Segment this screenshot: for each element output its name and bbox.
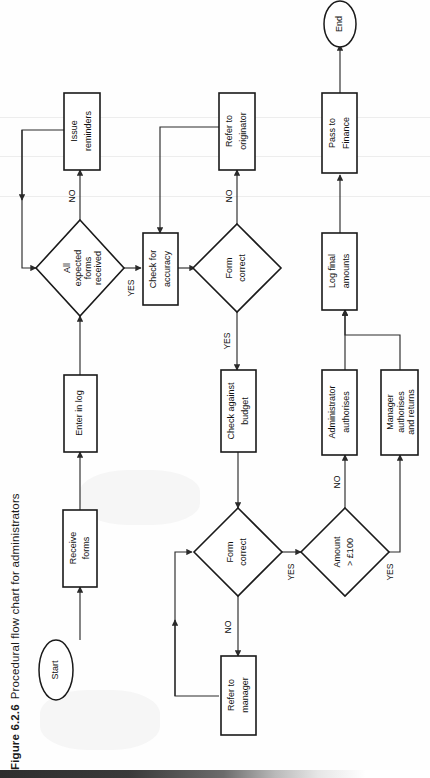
node-refer-to-originator[interactable]: Refer to originator: [219, 93, 255, 170]
node-enter-in-log[interactable]: Enter in log: [64, 375, 97, 452]
svg-text:Receive: Receive: [68, 532, 78, 565]
svg-text:End: End: [334, 16, 344, 32]
node-form-correct-1[interactable]: Form correct: [193, 224, 281, 312]
edge-mgrauth-to-logfinal: [345, 310, 400, 370]
figure-page: Start Receive forms Enter in log All exp…: [0, 0, 430, 778]
page-edge-bar: [0, 770, 430, 778]
figure-number: Figure 6.2.6: [9, 704, 21, 770]
node-form-correct-2[interactable]: Form correct: [194, 508, 282, 596]
edge-label-yes-amount: YES: [385, 563, 395, 580]
svg-text:Manager: Manager: [385, 394, 395, 430]
node-receive-forms[interactable]: Receive forms: [63, 510, 97, 587]
svg-text:Amount: Amount: [332, 536, 342, 568]
svg-text:Finance: Finance: [341, 117, 351, 149]
svg-text:authorises: authorises: [341, 391, 351, 433]
edge-label-no-allforms: NO: [67, 189, 77, 202]
svg-text:and returns: and returns: [406, 389, 416, 435]
svg-text:Refer to: Refer to: [224, 115, 234, 147]
svg-text:budget: budget: [240, 397, 250, 425]
edge-referorig-loop-to-checkacc: [160, 127, 219, 233]
svg-text:Issue: Issue: [69, 120, 79, 142]
node-all-forms-received[interactable]: All expected forms received: [36, 220, 124, 316]
svg-text:Administrator: Administrator: [327, 385, 337, 438]
figure-caption: Figure 6.2.6 Procedural flow chart for a…: [0, 0, 30, 778]
svg-text:correct: correct: [237, 254, 247, 282]
edge-amount-yes-to-mgrauth: [389, 455, 400, 552]
svg-text:received: received: [93, 251, 103, 285]
node-pass-to-finance[interactable]: Pass to Finance: [322, 93, 357, 173]
node-refer-to-manager[interactable]: Refer to manager: [221, 656, 256, 735]
svg-text:originator: originator: [238, 112, 248, 150]
figure-caption-text: Procedural flow chart for administrators: [9, 493, 21, 699]
node-check-against-budget[interactable]: Check against budget: [221, 370, 256, 452]
svg-text:expected: expected: [73, 250, 83, 287]
svg-text:Refer to: Refer to: [226, 679, 236, 711]
svg-text:Enter in log: Enter in log: [74, 390, 84, 436]
node-check-for-accuracy[interactable]: Check for accuracy: [143, 233, 178, 305]
svg-text:Form: Form: [225, 542, 235, 563]
svg-text:forms: forms: [81, 536, 91, 559]
svg-text:Check for: Check for: [148, 250, 158, 289]
svg-text:accuracy: accuracy: [162, 250, 172, 287]
svg-text:Start: Start: [50, 660, 60, 680]
edge-label-yes-allforms: YES: [126, 279, 136, 296]
edge-label-no-amount: NO: [332, 475, 342, 488]
node-end[interactable]: End: [324, 1, 356, 47]
node-issue-reminders[interactable]: Issue reminders: [64, 93, 100, 170]
svg-text:All: All: [62, 263, 72, 273]
edge-label-yes-formcorr2: YES: [286, 563, 296, 580]
svg-text:Check against: Check against: [226, 382, 236, 440]
flowchart-canvas: Start Receive forms Enter in log All exp…: [0, 0, 430, 778]
edge-label-no-formcorr2: NO: [223, 620, 233, 633]
svg-text:amounts: amounts: [341, 253, 351, 288]
svg-text:manager: manager: [240, 677, 250, 713]
svg-text:forms: forms: [83, 256, 93, 279]
svg-text:correct: correct: [238, 538, 248, 566]
svg-text:reminders: reminders: [83, 110, 93, 151]
svg-text:Log final: Log final: [327, 254, 337, 288]
svg-text:> £100: > £100: [345, 538, 355, 566]
svg-text:Form: Form: [224, 258, 234, 279]
edge-label-yes-formcorr1: YES: [222, 332, 232, 349]
node-administrator-authorises[interactable]: Administrator authorises: [322, 370, 357, 455]
svg-text:authorises: authorises: [396, 391, 406, 433]
node-log-final-amounts[interactable]: Log final amounts: [322, 233, 357, 310]
svg-text:Pass to: Pass to: [327, 118, 337, 148]
node-amount-over-100[interactable]: Amount > £100: [301, 508, 389, 596]
node-start[interactable]: Start: [39, 640, 73, 700]
edge-label-no-formcorr1: NO: [224, 189, 234, 202]
node-manager-authorises[interactable]: Manager authorises and returns: [381, 370, 418, 455]
edge-refermgr-loop-to-formcorr2: [175, 552, 219, 696]
